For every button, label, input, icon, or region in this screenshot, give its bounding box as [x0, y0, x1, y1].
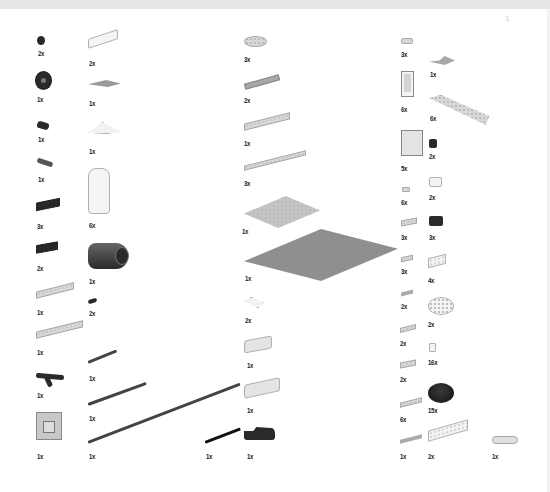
qty-label: 2x [429, 194, 435, 202]
qty-label: 16x [428, 359, 437, 367]
plate-icon [36, 320, 83, 339]
qty-label: 5x [401, 165, 407, 173]
inverted-slope-2-icon [244, 377, 280, 399]
gear-small-icon [37, 36, 45, 45]
slope-curved-icon [88, 122, 120, 134]
top-bar [0, 0, 550, 9]
slope-2x2-icon [244, 297, 264, 308]
plate-1x3-icon [400, 324, 416, 333]
technic-connector-icon [37, 158, 54, 168]
plate-2x6-icon [244, 112, 290, 130]
qty-label: 1x [38, 176, 44, 184]
qty-label: 1x [89, 453, 95, 461]
qty-label: 2x [401, 303, 407, 311]
qty-label: 1x [37, 392, 43, 400]
qty-label: 6x [89, 222, 95, 230]
round-brick-dark-icon [428, 383, 454, 403]
tile-1x1-icon [401, 38, 413, 44]
brick-1x2-black-icon [429, 216, 443, 226]
brick-1x2-white-icon [429, 177, 442, 187]
qty-label: 1x [242, 228, 248, 236]
wedge-plate-icon [88, 80, 121, 87]
qty-label: 2x [89, 310, 95, 318]
page-mark: 1 [505, 14, 511, 24]
qty-label: 3x [401, 234, 407, 242]
brick-1x1-dark-icon [429, 139, 437, 148]
qty-label: 1x [89, 148, 95, 156]
qty-label: 1x [400, 453, 406, 461]
qty-label: 1x [244, 140, 250, 148]
round-plate-icon [244, 36, 267, 47]
qty-label: 2x [244, 97, 250, 105]
plate-2x2b-icon [400, 360, 416, 369]
axle-black-icon [204, 427, 241, 443]
qty-label: 1x [206, 453, 212, 461]
qty-label: 1x [245, 275, 251, 283]
plate-1x6-icon [244, 74, 280, 90]
plate-1x4-icon [400, 397, 422, 407]
qty-label: 2x [400, 340, 406, 348]
qty-label: 2x [37, 265, 43, 273]
inverted-slope-icon [244, 336, 272, 354]
slope-brick-icon [88, 29, 118, 49]
wing-plate-icon [429, 56, 455, 65]
qty-label: 1x [430, 71, 436, 79]
qty-label: 1x [89, 100, 95, 108]
qty-label: 1x [37, 309, 43, 317]
qty-label: 2x [428, 321, 434, 329]
qty-label: 1x [38, 136, 44, 144]
brick-1x1-clear-icon [429, 343, 436, 352]
qty-label: 3x [244, 56, 250, 64]
tile-1x2-icon [401, 290, 413, 297]
gear-hub-icon [41, 78, 46, 83]
qty-label: 1x [89, 375, 95, 383]
qty-label: 4x [428, 277, 434, 285]
technic-pin-icon [88, 298, 98, 305]
door-frame-inner-icon [404, 74, 411, 92]
baseplate-icon [244, 229, 398, 281]
qty-label: 6x [401, 106, 407, 114]
qty-label: 15x [428, 407, 437, 415]
qty-label: 2x [245, 317, 251, 325]
qty-label: 2x [400, 376, 406, 384]
plate-2x2-icon [401, 218, 417, 227]
plate-icon [36, 282, 74, 298]
round-brick-icon [428, 297, 454, 315]
plate-8x8-icon [244, 196, 320, 228]
plate-1x2-icon [401, 255, 413, 263]
qty-label: 1x [247, 362, 253, 370]
technic-frame-window-icon [43, 421, 55, 433]
qty-label: 2x [89, 60, 95, 68]
qty-label: 1x [247, 453, 253, 461]
qty-label: 3x [244, 180, 250, 188]
tile-small-icon [402, 187, 410, 192]
cylinder-half-icon [88, 168, 110, 214]
technic-beam-dark-icon [244, 427, 275, 440]
tile-1x4-icon [400, 434, 422, 443]
motor-face-icon [115, 247, 129, 265]
qty-label: 6x [401, 199, 407, 207]
axle-medium-icon [87, 382, 146, 406]
qty-label: 1x [247, 407, 253, 415]
qty-label: 1x [37, 453, 43, 461]
qty-label: 3x [429, 234, 435, 242]
plate-1x12-icon [244, 150, 306, 170]
qty-label: 2x [429, 153, 435, 161]
qty-label: 2x [428, 453, 434, 461]
technic-brick-icon [36, 241, 58, 254]
axle-short-icon [87, 349, 117, 363]
qty-label: 6x [400, 416, 406, 424]
panel-icon [401, 130, 423, 156]
qty-label: 3x [401, 51, 407, 59]
brick-1x8-icon [428, 419, 468, 441]
technic-bush-icon [36, 121, 49, 131]
brick-1x4-icon [428, 254, 446, 268]
qty-label: 1x [37, 349, 43, 357]
qty-label: 3x [37, 223, 43, 231]
wedge-plate-long-icon [429, 95, 489, 125]
qty-label: 1x [37, 96, 43, 104]
technic-brick-icon [36, 197, 60, 211]
qty-label: 3x [401, 268, 407, 276]
qty-label: 6x [430, 115, 436, 123]
qty-label: 2x [38, 50, 44, 58]
